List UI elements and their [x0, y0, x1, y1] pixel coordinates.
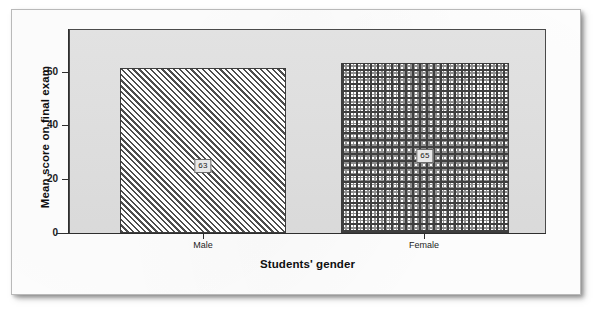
x-tick-mark-male [203, 234, 204, 239]
y-axis-line [68, 29, 69, 234]
y-tick-label-60: 60 [28, 66, 58, 77]
x-tick-mark-female [424, 234, 425, 239]
y-tick-label-0: 0 [28, 227, 58, 238]
x-axis-title: Students' gender [69, 258, 546, 270]
bar-value-male: 63 [194, 159, 211, 173]
x-axis-line [56, 233, 546, 234]
y-tick-label-40: 40 [28, 119, 58, 130]
bar-female[interactable]: 65 [341, 63, 509, 233]
bar-male[interactable]: 63 [120, 68, 286, 233]
y-tick-label-20: 20 [28, 173, 58, 184]
bar-value-female: 65 [416, 149, 433, 163]
bar-chart: Mean score on final exam 0 20 40 60 63 6… [0, 0, 605, 316]
x-tick-label-male: Male [158, 240, 248, 250]
x-tick-label-female: Female [379, 240, 469, 250]
plot-area: 63 65 [69, 29, 546, 234]
